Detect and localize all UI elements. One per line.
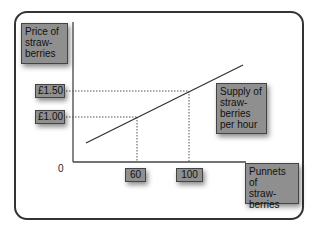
supply-curve-label: Supply of straw- berries per hour	[216, 83, 267, 134]
tick-qty-high: 100	[176, 168, 203, 182]
tick-qty-low: 60	[125, 168, 146, 182]
y-axis-label: Price of straw- berries	[21, 23, 68, 64]
origin-label: 0	[58, 163, 64, 174]
supply-label-line: berries	[220, 108, 263, 119]
x-axis-label-line: berries	[249, 199, 295, 210]
x-axis-label-line: straw-	[249, 188, 295, 199]
tick-price-low: £1.00	[35, 110, 65, 124]
x-axis-label-line: Punnets of	[249, 166, 295, 188]
x-axis-label: Punnets of straw- berries	[245, 163, 299, 204]
y-axis-label-line: berries	[25, 48, 64, 59]
supply-label-line: straw-	[220, 97, 263, 108]
supply-label-line: Supply of	[220, 86, 263, 97]
y-axis-label-line: Price of	[25, 26, 64, 37]
supply-label-line: per hour	[220, 119, 263, 130]
tick-price-high: £1.50	[35, 84, 65, 98]
y-axis-label-line: straw-	[25, 37, 64, 48]
